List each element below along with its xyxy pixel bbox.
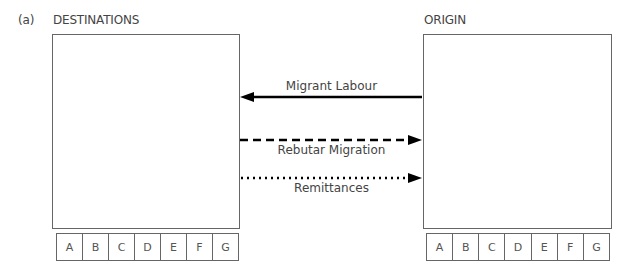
flow-label-remittances: Remittances [240, 181, 423, 195]
flow-label-rebutar-migration: Rebutar Migration [240, 143, 423, 157]
flow-arrows [0, 0, 631, 273]
flow-label-migrant-labour: Migrant Labour [240, 79, 423, 93]
arrow-left-icon [240, 92, 422, 102]
